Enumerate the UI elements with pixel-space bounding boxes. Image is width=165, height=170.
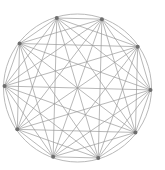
- edge-n2-n3: [53, 157, 98, 158]
- edge-n2-n5: [5, 86, 99, 158]
- node-n1: [133, 130, 137, 134]
- node-n2: [96, 156, 100, 160]
- complete-graph-diagram: [0, 0, 165, 170]
- edge-n4-n7: [17, 18, 56, 129]
- node-n8: [100, 17, 104, 21]
- node-n7: [55, 16, 59, 20]
- node-n6: [18, 42, 22, 46]
- node-n9: [136, 45, 140, 49]
- edge-n0-n7: [57, 18, 151, 90]
- node-n5: [3, 84, 7, 88]
- edge-n7-n8: [57, 18, 102, 19]
- edge-n1-n2: [98, 132, 135, 158]
- node-n4: [15, 127, 19, 131]
- edge-n8-n9: [102, 19, 138, 46]
- edge-n6-n7: [20, 18, 57, 44]
- node-n0: [148, 88, 152, 92]
- edge-n2-n9: [98, 47, 137, 158]
- node-n3: [51, 155, 55, 159]
- edges-group: [5, 18, 151, 158]
- edge-n4-n9: [17, 47, 137, 130]
- edge-n6-n8: [20, 19, 102, 43]
- edge-n4-n8: [17, 19, 102, 129]
- edge-n3-n4: [17, 129, 53, 156]
- edge-n3-n9: [53, 47, 138, 157]
- edge-n5-n9: [5, 47, 138, 86]
